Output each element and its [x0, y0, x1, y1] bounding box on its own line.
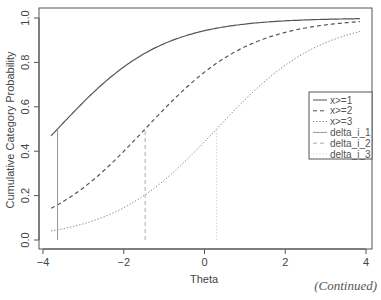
legend-item: delta_i_1	[330, 127, 371, 138]
legend: x>=1x>=2x>=3delta_i_1delta_i_2delta_i_3	[309, 92, 372, 160]
y-tick-label: 0.2	[19, 188, 31, 203]
x-axis-label: Theta	[190, 273, 219, 285]
y-tick-label: 0.4	[19, 144, 31, 159]
x-axis: −4−2024	[37, 249, 369, 268]
y-tick-label: 0.6	[19, 99, 31, 114]
x-tick-label: 2	[282, 256, 288, 268]
legend-item: x>=1	[330, 95, 353, 106]
y-tick-label: 0.8	[19, 55, 31, 70]
chart: −4−2024 0.00.20.40.60.81.0 Theta Cumulat…	[0, 0, 381, 300]
y-axis-label: Cumulative Category Probability	[4, 51, 16, 209]
legend-item: delta_i_3	[330, 149, 371, 160]
y-tick-label: 0.0	[19, 232, 31, 247]
legend-item: x>=3	[330, 116, 353, 127]
y-tick-label: 1.0	[19, 10, 31, 25]
delta-lines	[58, 129, 217, 240]
continued-note: (Continued)	[314, 278, 377, 294]
y-axis: 0.00.20.40.60.81.0	[19, 10, 39, 247]
legend-item: delta_i_2	[330, 138, 371, 149]
x-tick-label: −4	[37, 256, 50, 268]
legend-item: x>=2	[330, 105, 353, 116]
x-tick-label: −2	[117, 256, 130, 268]
x-tick-label: 0	[201, 256, 207, 268]
x-tick-label: 4	[363, 256, 369, 268]
